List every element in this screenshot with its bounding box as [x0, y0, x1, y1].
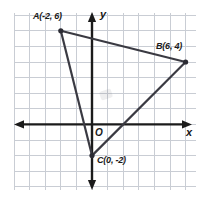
point-label-a: A(-2, 6): [33, 11, 62, 21]
vertex-b: [183, 59, 188, 64]
point-label-c: C(0, -2): [97, 155, 126, 165]
vertex-c: [89, 153, 94, 158]
x-axis: [14, 120, 192, 128]
point-label-b: B(6, 4): [156, 41, 182, 51]
coordinate-plane-figure: A(-2, 6) B(6, 4) C(0, -2) O x y: [0, 0, 205, 199]
origin-label: O: [95, 127, 103, 138]
y-axis-label: y: [100, 8, 106, 20]
vertex-a: [58, 28, 63, 33]
x-axis-label: x: [186, 126, 192, 138]
